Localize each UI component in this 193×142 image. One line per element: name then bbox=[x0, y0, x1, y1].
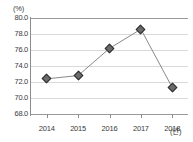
y-axis-tick-label: 78.0 bbox=[6, 30, 28, 38]
gridline bbox=[31, 82, 188, 83]
x-axis-tick-label: 2018 bbox=[157, 124, 187, 133]
y-axis-tick-label: 68.0 bbox=[6, 110, 28, 118]
line-chart: ’ ’ ’ ’ ’ ’ ’ ’ ’ ’ ’ ’ (%) (년) 80.078.0… bbox=[0, 0, 193, 142]
y-axis-tick-label: 76.0 bbox=[6, 46, 28, 54]
x-axis-tick-label: 2015 bbox=[63, 124, 93, 133]
x-axis-tick bbox=[78, 114, 79, 118]
x-axis-tick bbox=[110, 114, 111, 118]
scan-artifact-strip: ’ ’ ’ ’ ’ ’ ’ ’ ’ ’ ’ ’ bbox=[0, 0, 193, 6]
y-axis-tick-labels: 80.078.076.074.072.070.068.0 bbox=[5, 0, 28, 142]
y-axis-tick-label: 70.0 bbox=[6, 94, 28, 102]
plot-area bbox=[31, 18, 188, 114]
x-axis-tick-label: 2017 bbox=[126, 124, 156, 133]
y-axis-tick-label: 80.0 bbox=[6, 14, 28, 22]
gridline bbox=[31, 18, 188, 19]
gridline bbox=[31, 34, 188, 35]
x-axis-tick bbox=[172, 114, 173, 118]
gridline bbox=[31, 66, 188, 67]
gridline bbox=[31, 98, 188, 99]
x-axis-tick bbox=[141, 114, 142, 118]
y-axis-tick-label: 72.0 bbox=[6, 78, 28, 86]
y-axis-tick-label: 74.0 bbox=[6, 62, 28, 70]
x-axis-tick-label: 2014 bbox=[32, 124, 62, 133]
gridline bbox=[31, 50, 188, 51]
x-axis-tick bbox=[47, 114, 48, 118]
x-axis-tick-label: 2016 bbox=[95, 124, 125, 133]
